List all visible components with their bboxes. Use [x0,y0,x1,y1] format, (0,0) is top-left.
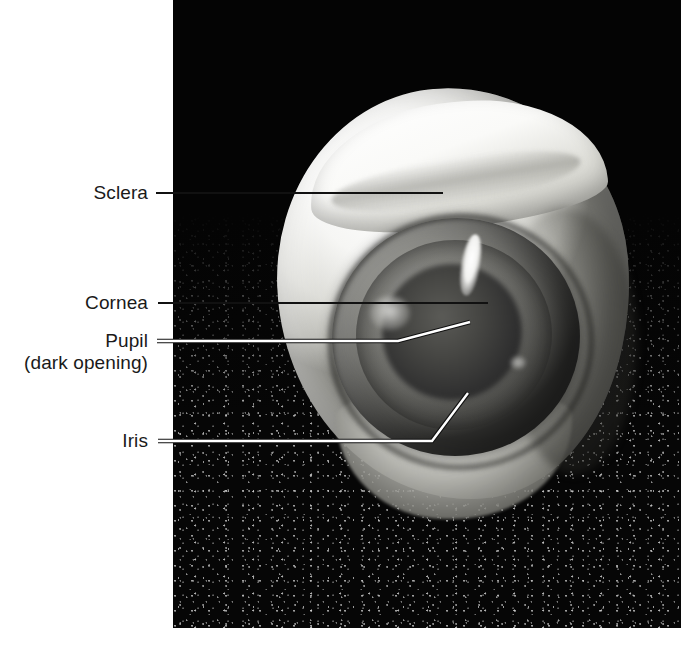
eye-anatomy-figure: Sclera Cornea Pupil (dark opening) Iris [0,0,681,647]
label-sclera-text: Sclera [94,182,148,203]
label-pupil: Pupil (dark opening) [24,330,148,374]
label-iris-text: Iris [122,430,148,451]
specimen-photograph [173,0,681,628]
label-cornea-text: Cornea [85,292,148,313]
label-sclera: Sclera [94,182,148,204]
label-iris: Iris [122,430,148,452]
label-cornea: Cornea [85,292,148,314]
label-pupil-subtext: (dark opening) [24,352,148,374]
label-pupil-text: Pupil [105,330,148,351]
specular-highlight-tertiary [510,356,526,369]
eye-specimen [278,88,633,513]
specular-highlight-secondary [370,296,410,330]
